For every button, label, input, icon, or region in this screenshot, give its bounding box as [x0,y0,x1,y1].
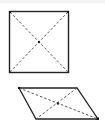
parallelogram-figure [18,87,99,120]
geometry-diagram [0,0,105,130]
parallelogram-diagonal-2 [36,88,77,119]
square-figure [9,11,69,73]
square-corner-tl [9,11,11,13]
square-intersection-point [38,41,40,43]
parallelogram-intersection-point [57,102,59,104]
parallelogram-corner-tl [18,87,20,89]
parallelogram-corner-br [97,118,100,121]
square-corner-tr [67,11,69,13]
